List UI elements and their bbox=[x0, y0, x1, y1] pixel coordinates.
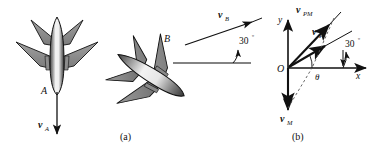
physics-figure-svg: A v A B v B 30 º (a) bbox=[0, 0, 378, 151]
vector-pm-label: v bbox=[296, 4, 301, 15]
aircraft-a-label: A bbox=[40, 85, 48, 96]
panel-b-caption: (b) bbox=[292, 131, 304, 143]
axis-x-label: x bbox=[355, 71, 361, 81]
panel-a-vector-group: v B 30 º bbox=[173, 9, 262, 63]
aircraft-a-fuselage bbox=[50, 17, 64, 95]
vector-p-subscript: P bbox=[318, 32, 323, 39]
aircraft-a-nacelle-right bbox=[64, 56, 69, 70]
aircraft-b-group bbox=[96, 21, 206, 132]
figure-container: A v A B v B 30 º (a) bbox=[0, 0, 378, 151]
panel-b-theta-label: θ bbox=[315, 72, 320, 82]
origin-label: O bbox=[277, 63, 284, 74]
panel-a-angle-arc bbox=[233, 50, 238, 63]
vector-pm-extension bbox=[329, 12, 341, 25]
vector-m-subscript: M bbox=[286, 119, 293, 126]
axis-y-label: y bbox=[277, 15, 283, 25]
dashed-m-to-p bbox=[288, 68, 312, 108]
velocity-b-extension bbox=[252, 18, 262, 22]
velocity-b-label: v bbox=[218, 9, 223, 20]
vector-m-label: v bbox=[280, 113, 285, 124]
panel-b-group: y x O v PM v P v M θ 30 º bbox=[277, 4, 366, 126]
panel-b-angle-unit: º bbox=[358, 37, 360, 44]
panel-b-theta-arc bbox=[310, 56, 312, 68]
panel-b-angle-label: 30 bbox=[345, 39, 355, 49]
panel-a-angle-label: 30 bbox=[239, 36, 249, 46]
vector-p-label: v bbox=[312, 26, 317, 37]
aircraft-a-nacelle-left bbox=[45, 56, 50, 70]
velocity-a-label: v bbox=[38, 119, 43, 130]
velocity-a-subscript: A bbox=[44, 125, 49, 132]
vector-pm-subscript: PM bbox=[302, 10, 313, 17]
panel-a-angle-unit: º bbox=[252, 34, 254, 41]
panel-a-caption: (a) bbox=[120, 131, 131, 143]
aircraft-b-label: B bbox=[164, 33, 170, 44]
aircraft-a-group: A v A bbox=[16, 17, 98, 134]
velocity-b-subscript: B bbox=[225, 15, 229, 22]
